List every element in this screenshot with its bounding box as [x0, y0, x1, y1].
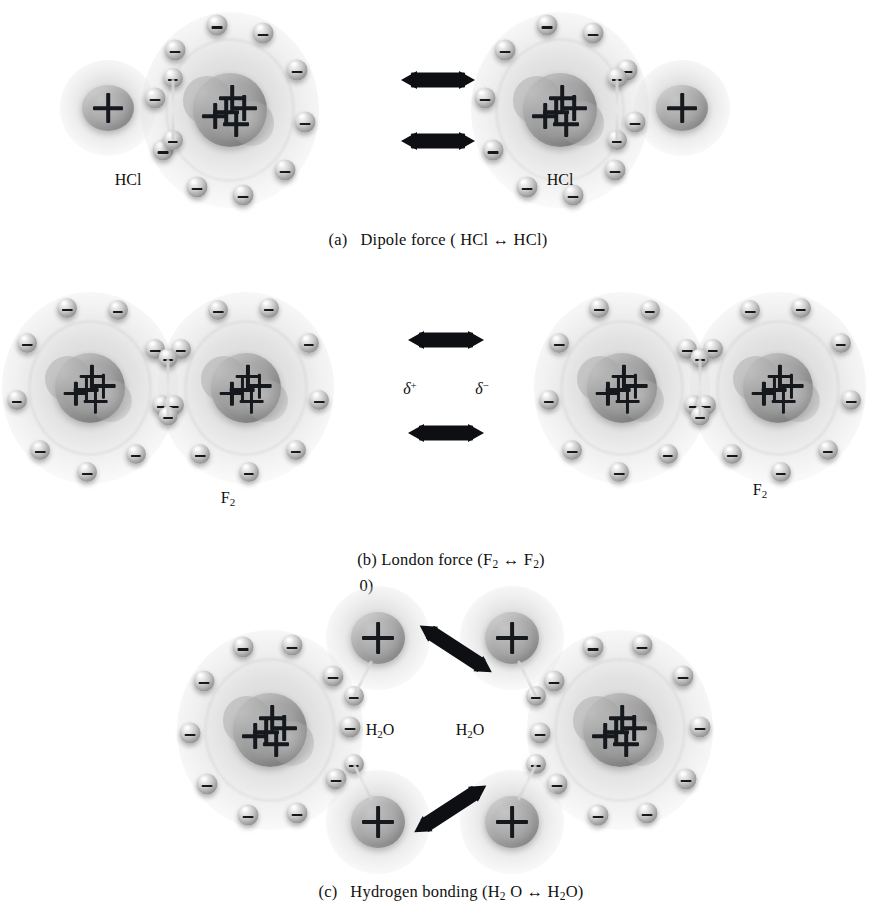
fluorine-valence-electron — [841, 390, 861, 410]
electron-minus-sign — [630, 123, 641, 125]
panel-a-caption: (a) Dipole force ( HCl ↔ HCl) — [0, 230, 876, 250]
electron-minus-sign — [479, 99, 490, 101]
electron-minus-sign — [775, 473, 785, 475]
panel-hydrogen-bonding: H2OH2O (c) Hydrogen bonding (H2 O ↔ H2O) — [0, 590, 876, 900]
electron-minus-sign — [609, 171, 620, 173]
panel-c-caption: (c) Hydrogen bonding (H2 O ↔ H2O) — [0, 862, 876, 905]
oxygen-valence-electron — [637, 802, 658, 823]
electron-minus-sign — [587, 648, 598, 650]
fluorine-valence-electron — [722, 444, 742, 464]
chlorine-valence-electron — [583, 22, 604, 43]
oxygen-valence-electron — [676, 769, 697, 790]
oxygen-valence-electron — [632, 635, 653, 656]
fluorine-valence-electron — [658, 444, 678, 464]
oxygen-valence-electron — [582, 637, 603, 658]
fluorine-valence-electron — [539, 390, 559, 410]
electron-minus-sign — [552, 785, 563, 787]
fluorine-valence-electron — [831, 333, 851, 353]
electron-minus-sign — [500, 51, 511, 53]
fluorine-valence-electron — [818, 440, 838, 460]
electron-minus-sign — [678, 677, 689, 679]
electron-minus-sign — [612, 141, 622, 143]
fluorine-valence-electron — [740, 300, 760, 320]
hcl-label-right: HCl — [547, 171, 574, 189]
electron-minus-sign — [662, 455, 672, 457]
electron-minus-sign — [548, 682, 559, 684]
oxygen-valence-electron — [530, 723, 551, 744]
electron-minus-sign — [531, 697, 541, 699]
electron-minus-sign — [487, 151, 498, 153]
electron-minus-sign — [707, 350, 717, 352]
electron-minus-sign — [594, 309, 604, 311]
electron-minus-sign — [681, 780, 692, 782]
electron-minus-sign — [541, 26, 552, 28]
electron-minus-sign — [642, 814, 653, 816]
electron-minus-sign — [588, 34, 599, 36]
proton-plus-sign — [762, 378, 787, 403]
electron-minus-sign — [727, 455, 737, 457]
proton-plus-sign — [667, 93, 697, 123]
hcl-label-left: HCl — [115, 171, 142, 189]
fluorine-valence-electron — [640, 300, 660, 320]
electron-minus-sign — [682, 350, 692, 352]
london-arrow-bottom — [408, 426, 484, 441]
water-label-right: H2O — [456, 721, 485, 740]
electron-minus-sign — [637, 646, 648, 648]
electron-minus-sign — [645, 311, 655, 313]
fluorine-valence-electron — [771, 462, 791, 482]
fluorine-valence-electron — [549, 333, 569, 353]
water-label-left: H2O — [366, 721, 395, 740]
proton-plus-sign — [496, 806, 528, 838]
panel-london-force: F2F2δ+δ− (b) London force (F2 ↔ F2) 0) — [0, 268, 876, 590]
london-arrow-top — [408, 333, 484, 348]
chlorine-valence-electron — [516, 177, 537, 198]
covalent-bond — [616, 78, 619, 140]
electron-minus-sign — [567, 451, 577, 453]
panel-c-illustration: H2OH2O — [0, 590, 876, 900]
panel-dipole-force: HClHCl (a) Dipole force ( HCl ↔ HCl) — [0, 0, 876, 268]
proton-plus-sign — [543, 99, 569, 125]
electron-minus-sign — [836, 344, 846, 346]
electron-minus-sign — [592, 816, 603, 818]
chlorine-valence-electron — [536, 15, 557, 36]
oxygen-valence-electron — [689, 716, 710, 737]
proton-plus-sign — [496, 622, 528, 654]
chlorine-valence-electron — [604, 159, 625, 180]
electron-minus-sign — [544, 401, 554, 403]
chlorine-valence-electron — [625, 111, 646, 132]
electron-minus-sign — [745, 311, 755, 313]
f2-label-left: F2 — [221, 489, 235, 508]
electron-minus-sign — [521, 188, 532, 190]
fluorine-valence-electron — [589, 298, 609, 318]
chlorine-valence-electron — [495, 40, 516, 61]
panel-a-illustration: HClHCl — [0, 0, 876, 268]
delta-negative-label: δ− — [475, 379, 489, 398]
electron-minus-sign — [695, 417, 705, 419]
covalent-bond — [699, 358, 702, 416]
chlorine-valence-electron — [482, 140, 503, 161]
electron-minus-sign — [568, 196, 579, 198]
electron-minus-sign — [846, 401, 856, 403]
electron-minus-sign — [822, 451, 832, 453]
dipole-arrow-bottom — [401, 134, 475, 149]
oxygen-valence-electron — [673, 665, 694, 686]
chlorine-valence-electron — [474, 88, 495, 109]
delta-positive-label: δ+ — [403, 379, 417, 398]
electron-minus-sign — [796, 309, 806, 311]
fluorine-valence-electron — [609, 462, 629, 482]
fluorine-valence-electron — [562, 440, 582, 460]
oxygen-valence-electron — [587, 804, 608, 825]
electron-minus-sign — [535, 734, 546, 736]
electron-minus-sign — [614, 473, 624, 475]
electron-minus-sign — [554, 344, 564, 346]
proton-plus-sign — [606, 378, 631, 403]
electron-minus-sign — [694, 728, 705, 730]
dipole-arrow-top — [401, 73, 475, 88]
fluorine-valence-electron — [791, 298, 811, 318]
proton-plus-sign — [603, 719, 629, 745]
f2-label-right: F2 — [753, 481, 767, 500]
